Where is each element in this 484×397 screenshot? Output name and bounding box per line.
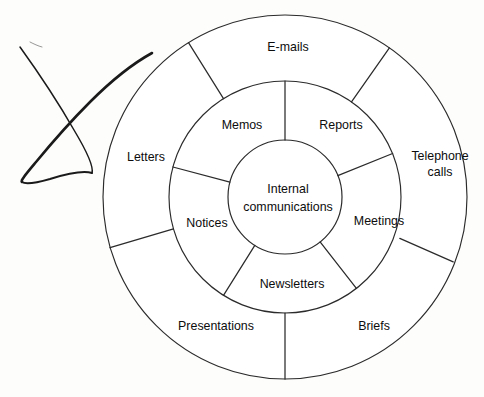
ink-stroke-loop-base bbox=[22, 172, 92, 183]
middle-label-notices: Notices bbox=[186, 216, 227, 230]
centre-label-line2: communications bbox=[243, 200, 333, 214]
diagram-root: E-mails Telephone calls Briefs Presentat… bbox=[0, 0, 484, 397]
centre-label-line1: Internal bbox=[267, 182, 308, 196]
middle-label-meetings: Meetings bbox=[354, 214, 404, 228]
middle-label-newsletters: Newsletters bbox=[260, 277, 325, 291]
outer-label-telephone-calls-line1: Telephone bbox=[411, 149, 468, 163]
outer-label-telephone-calls-line2: calls bbox=[428, 165, 453, 179]
outer-label-briefs: Briefs bbox=[358, 319, 390, 333]
outer-label-letters: Letters bbox=[127, 150, 165, 164]
outer-label-emails: E-mails bbox=[267, 40, 308, 54]
middle-label-reports: Reports bbox=[319, 118, 362, 132]
outer-label-presentations: Presentations bbox=[178, 319, 254, 333]
communications-wheel-diagram: E-mails Telephone calls Briefs Presentat… bbox=[0, 0, 484, 397]
inner-circle-boundary bbox=[228, 140, 342, 254]
ink-stroke-tick bbox=[30, 42, 42, 47]
middle-label-memos: Memos bbox=[222, 118, 263, 132]
